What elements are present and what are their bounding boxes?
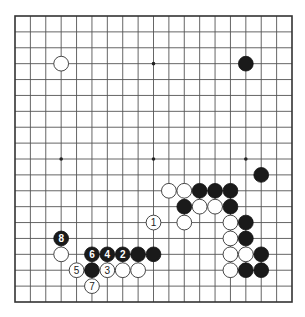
- white-stone-disc: [162, 183, 177, 198]
- white-stone: 1: [146, 215, 161, 230]
- black-stone-disc: [85, 263, 100, 278]
- white-stone: [54, 247, 69, 262]
- white-stone-disc: [223, 231, 238, 246]
- black-stone-disc: [238, 215, 253, 230]
- black-stone: 2: [115, 247, 130, 262]
- star-point: [59, 157, 63, 161]
- black-stone: [238, 56, 253, 71]
- star-point: [152, 62, 156, 66]
- white-stone-disc: [54, 56, 69, 71]
- white-stone-disc: [192, 199, 207, 214]
- black-stone-disc: [254, 263, 269, 278]
- black-stone-disc: [192, 183, 207, 198]
- black-stone: [208, 183, 223, 198]
- black-stone-disc: [223, 183, 238, 198]
- black-stone-disc: [254, 247, 269, 262]
- white-stone: 7: [85, 279, 100, 294]
- black-stone: [192, 183, 207, 198]
- move-number: 4: [105, 249, 111, 260]
- move-number: 3: [105, 265, 111, 276]
- black-stone-disc: [238, 263, 253, 278]
- white-stone-disc: [115, 263, 130, 278]
- white-stone: [208, 199, 223, 214]
- black-stone: 4: [100, 247, 115, 262]
- black-stone: [238, 263, 253, 278]
- black-stone-disc: [238, 56, 253, 71]
- black-stone-disc: [146, 247, 161, 262]
- white-stone: [223, 263, 238, 278]
- black-stone: [254, 263, 269, 278]
- star-point: [152, 157, 156, 161]
- black-stone: [223, 183, 238, 198]
- move-number: 1: [151, 217, 157, 228]
- white-stone: [177, 183, 192, 198]
- white-stone: [131, 263, 146, 278]
- move-number: 7: [89, 281, 95, 292]
- black-stone: [223, 199, 238, 214]
- white-stone-disc: [208, 199, 223, 214]
- white-stone-disc: [238, 247, 253, 262]
- white-stone: [223, 231, 238, 246]
- black-stone: [238, 215, 253, 230]
- black-stone: [254, 247, 269, 262]
- black-stone-disc: [177, 199, 192, 214]
- black-stone-disc: [238, 231, 253, 246]
- move-number: 8: [58, 233, 64, 244]
- black-stone: [146, 247, 161, 262]
- white-stone-disc: [131, 263, 146, 278]
- white-stone: [54, 56, 69, 71]
- black-stone: [85, 263, 100, 278]
- white-stone-disc: [54, 247, 69, 262]
- white-stone-disc: [223, 215, 238, 230]
- black-stone-disc: [254, 168, 269, 183]
- black-stone-disc: [223, 199, 238, 214]
- white-stone: [162, 183, 177, 198]
- black-stone: [238, 231, 253, 246]
- move-number: 2: [120, 249, 126, 260]
- black-stone: [254, 168, 269, 183]
- star-point: [244, 157, 248, 161]
- white-stone: [223, 247, 238, 262]
- black-stone: 8: [54, 231, 69, 246]
- move-number: 6: [89, 249, 95, 260]
- white-stone: 3: [100, 263, 115, 278]
- white-stone-disc: [223, 263, 238, 278]
- black-stone-disc: [131, 247, 146, 262]
- white-stone: [192, 199, 207, 214]
- white-stone: [238, 247, 253, 262]
- go-board[interactable]: 18642537: [0, 0, 305, 317]
- black-stone: [177, 199, 192, 214]
- white-stone-disc: [223, 247, 238, 262]
- black-stone: [131, 247, 146, 262]
- white-stone: [177, 215, 192, 230]
- go-board-canvas[interactable]: 18642537: [0, 0, 305, 317]
- white-stone: [223, 215, 238, 230]
- black-stone-disc: [208, 183, 223, 198]
- black-stone: 6: [85, 247, 100, 262]
- move-number: 5: [74, 265, 80, 276]
- white-stone-disc: [177, 183, 192, 198]
- white-stone: [115, 263, 130, 278]
- white-stone-disc: [177, 215, 192, 230]
- white-stone: 5: [69, 263, 84, 278]
